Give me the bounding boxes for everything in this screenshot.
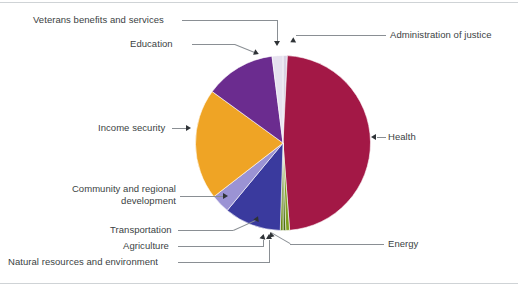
callout-label-agriculture: Agriculture — [123, 240, 169, 252]
leader-line-veterans-vertical — [277, 20, 278, 42]
callout-label-education: Education — [130, 38, 173, 50]
pie-svg — [195, 55, 371, 231]
leader-line-veterans-horizontal — [182, 20, 278, 21]
pie-chart-figure: Veterans benefits and services Education… — [0, 0, 518, 286]
leader-line-agriculture-horizontal — [178, 246, 264, 247]
arrowhead-administration-of-justice — [289, 37, 296, 45]
pie-slice-health[interactable] — [283, 56, 370, 231]
arrowhead-veterans — [274, 41, 280, 46]
leader-line-health — [377, 137, 386, 138]
leader-line-community-development — [180, 196, 224, 197]
leader-line-transportation-horizontal — [178, 230, 233, 231]
arrowhead-energy — [267, 231, 274, 237]
arrowhead-income-security — [186, 125, 191, 131]
leader-line-agriculture-vertical — [263, 240, 264, 247]
callout-label-community-line2: development — [121, 195, 176, 206]
callout-label-energy: Energy — [388, 238, 418, 250]
callout-label-veterans: Veterans benefits and services — [33, 14, 164, 26]
callout-label-income-security: Income security — [98, 122, 165, 134]
leader-line-natural-resources-vertical — [269, 240, 270, 263]
bottom-divider-rule — [0, 283, 518, 284]
leader-line-education-horizontal — [192, 44, 235, 45]
arrowhead-community-development — [223, 193, 228, 199]
leader-line-administration-of-justice — [296, 35, 386, 36]
leader-line-natural-resources-horizontal — [178, 262, 270, 263]
leader-line-education-diagonal — [235, 44, 256, 53]
callout-label-transportation: Transportation — [110, 224, 172, 236]
leader-line-income-security — [172, 128, 187, 129]
callout-label-health: Health — [388, 131, 416, 143]
pie-graphic — [195, 55, 371, 231]
top-divider-rule — [0, 2, 518, 3]
callout-label-community-development: Community and regionaldevelopment — [52, 183, 176, 206]
leader-line-energy-horizontal — [290, 244, 384, 245]
callout-label-natural-resources: Natural resources and environment — [8, 256, 158, 268]
arrowhead-health — [371, 134, 376, 140]
callout-label-administration-of-justice: Administration of justice — [390, 29, 492, 41]
callout-label-community-line1: Community and regional — [72, 183, 176, 194]
